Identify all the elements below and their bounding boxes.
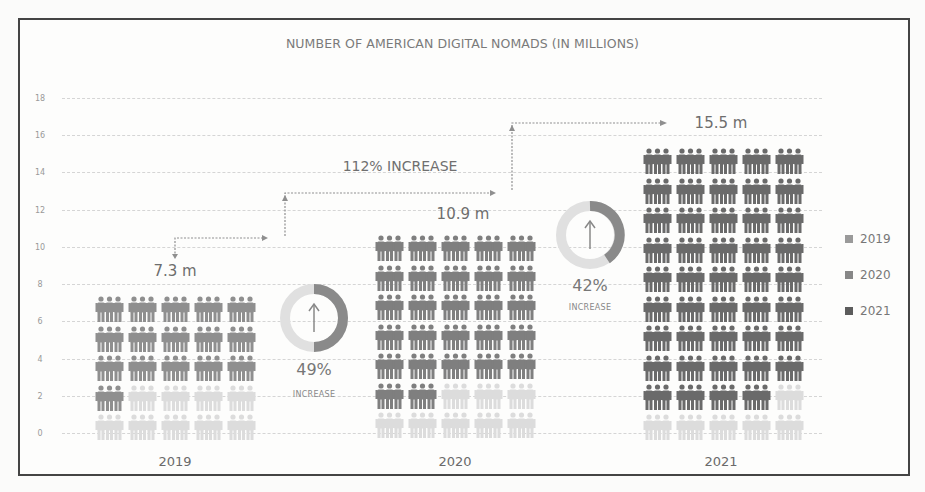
pictogram-row [95, 414, 256, 441]
person-group-icon [709, 237, 738, 264]
person-group-icon [408, 324, 437, 351]
pictogram-row [95, 355, 256, 382]
person-group-icon [194, 326, 223, 353]
person-group-icon [507, 353, 536, 380]
person-group-icon [775, 207, 804, 234]
person-group-icon [643, 414, 672, 441]
person-group-icon [161, 326, 190, 353]
legend-label: 2019 [860, 232, 891, 246]
person-group-icon [441, 265, 470, 292]
person-group-icon [227, 326, 256, 353]
person-group-icon [742, 148, 771, 175]
value-label-2021: 15.5 m [695, 114, 748, 132]
arrow-up-icon [309, 304, 319, 332]
person-group-icon [709, 355, 738, 382]
arrow-up-icon [585, 221, 595, 249]
pictogram-row [643, 414, 804, 441]
pictogram-row [643, 148, 804, 175]
person-group-icon [676, 296, 705, 323]
person-group-icon [474, 353, 503, 380]
person-group-icon [441, 383, 470, 410]
person-group-icon [161, 296, 190, 323]
person-group-icon [375, 235, 404, 262]
person-group-icon [95, 355, 124, 382]
person-group-icon [408, 294, 437, 321]
person-group-icon [507, 265, 536, 292]
person-group-icon [742, 414, 771, 441]
person-group-icon [709, 148, 738, 175]
person-group-icon [709, 384, 738, 411]
person-group-icon [676, 237, 705, 264]
person-group-icon [194, 355, 223, 382]
person-group-icon [709, 178, 738, 205]
person-group-icon [408, 235, 437, 262]
person-group-icon [775, 178, 804, 205]
person-group-icon [474, 412, 503, 439]
pictogram-row [643, 266, 804, 293]
pictogram-row [375, 412, 536, 439]
person-group-icon [775, 325, 804, 352]
person-group-icon [227, 355, 256, 382]
person-group-icon [709, 325, 738, 352]
pictogram-row [95, 326, 256, 353]
person-group-icon [676, 178, 705, 205]
pictogram-row [643, 355, 804, 382]
legend-item-2021: 2021 [845, 302, 891, 320]
person-group-icon [194, 414, 223, 441]
person-group-icon [775, 266, 804, 293]
person-group-icon [709, 296, 738, 323]
person-group-icon [775, 237, 804, 264]
person-group-icon [95, 414, 124, 441]
pictogram-row [375, 294, 536, 321]
person-group-icon [474, 383, 503, 410]
person-group-icon [676, 414, 705, 441]
person-group-icon [507, 235, 536, 262]
increase-donut-2020 [279, 283, 349, 353]
increase-label-2021: INCREASE [569, 303, 612, 312]
person-group-icon [709, 414, 738, 441]
person-group-icon [128, 296, 157, 323]
person-group-icon [643, 207, 672, 234]
person-group-icon [643, 296, 672, 323]
person-group-icon [643, 384, 672, 411]
total-increase-label: 112% INCREASE [343, 158, 458, 174]
person-group-icon [408, 353, 437, 380]
pictogram-row [375, 383, 536, 410]
person-group-icon [676, 207, 705, 234]
person-group-icon [742, 384, 771, 411]
person-group-icon [375, 412, 404, 439]
legend-swatch [845, 271, 853, 279]
person-group-icon [375, 294, 404, 321]
pictogram-row [643, 325, 804, 352]
person-group-icon [474, 265, 503, 292]
legend-swatch [845, 307, 853, 315]
legend: 2019 2020 2021 [845, 230, 891, 338]
person-group-icon [227, 385, 256, 412]
increase-donut-2021 [555, 200, 625, 270]
person-group-icon [742, 266, 771, 293]
person-group-icon [194, 296, 223, 323]
person-group-icon [507, 383, 536, 410]
person-group-icon [507, 412, 536, 439]
increase-pct-2020: 49% [296, 360, 332, 379]
person-group-icon [441, 324, 470, 351]
legend-label: 2021 [860, 304, 891, 318]
x-label-2020: 2020 [438, 454, 471, 469]
person-group-icon [441, 412, 470, 439]
legend-item-2019: 2019 [845, 230, 891, 248]
person-group-icon [441, 294, 470, 321]
person-group-icon [676, 355, 705, 382]
person-group-icon [408, 412, 437, 439]
pictogram-row [375, 235, 536, 262]
increase-label-2020: INCREASE [293, 390, 336, 399]
person-group-icon [742, 178, 771, 205]
person-group-icon [95, 385, 124, 412]
person-group-icon [775, 148, 804, 175]
person-group-icon [742, 237, 771, 264]
pictogram-row [643, 384, 804, 411]
x-label-2019: 2019 [158, 454, 191, 469]
person-group-icon [441, 235, 470, 262]
pictogram-row [375, 265, 536, 292]
person-group-icon [161, 385, 190, 412]
person-group-icon [709, 266, 738, 293]
